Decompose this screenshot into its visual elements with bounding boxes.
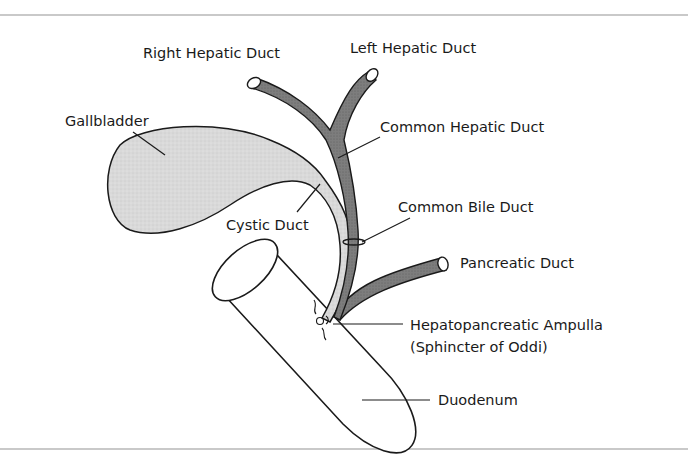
label-cystic-duct: Cystic Duct xyxy=(226,217,309,233)
label-ampulla-line2: (Sphincter of Oddi) xyxy=(410,339,548,355)
label-duodenum: Duodenum xyxy=(438,392,518,408)
label-common-bile-duct: Common Bile Duct xyxy=(398,199,534,215)
label-left-hepatic-duct: Left Hepatic Duct xyxy=(350,40,476,56)
label-gallbladder: Gallbladder xyxy=(65,113,149,129)
common-bile-duct-leader xyxy=(362,218,410,242)
label-pancreatic-duct: Pancreatic Duct xyxy=(460,255,574,271)
label-ampulla-line1: Hepatopancreatic Ampulla xyxy=(410,317,603,333)
label-common-hepatic-duct: Common Hepatic Duct xyxy=(380,119,544,135)
cystic-duct-leader xyxy=(297,184,320,212)
duodenum xyxy=(202,228,416,452)
label-right-hepatic-duct: Right Hepatic Duct xyxy=(143,45,280,61)
diagram-frame: Right Hepatic Duct Left Hepatic Duct Gal… xyxy=(0,0,688,459)
biliary-diagram: Right Hepatic Duct Left Hepatic Duct Gal… xyxy=(0,0,688,459)
